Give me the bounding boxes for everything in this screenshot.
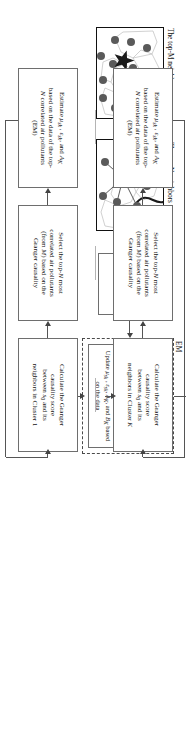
row-k-select-box[interactable]: Select the top-N mostcorrelated air poll…	[113, 205, 173, 321]
flowchart-stage: The top-M neighbors	[0, 0, 186, 752]
row-k-feedback-hline	[184, 120, 185, 457]
row-k-connector-granger-to-select	[142, 326, 143, 338]
row-1-connector-granger-to-select	[47, 326, 48, 338]
em-group-label: EM	[174, 341, 183, 353]
row-1-feedback-arrow	[45, 449, 51, 454]
row-k-arrow-granger-to-select	[140, 321, 146, 326]
row-1-select-box[interactable]: Select the top-N mostcorrelated air poll…	[18, 205, 78, 321]
arrow-em-to-row1	[80, 393, 85, 399]
ellipsis-estimate-column	[95, 110, 96, 144]
row-1-arrow-select-to-estimate	[45, 188, 51, 193]
row-1-feedback-hline	[5, 120, 6, 457]
row-1-estimate-box[interactable]: Estimate μsk , εsk, and AKbased on the d…	[18, 68, 78, 188]
row-1-connector-select-to-estimate	[47, 193, 48, 205]
ellipsis-granger-column	[95, 378, 96, 412]
row-k-granger-box[interactable]: Calculate the Grangercausality scorebetw…	[113, 338, 173, 452]
ellipsis-select-column	[95, 246, 96, 280]
row-1-feedback-vline-right	[6, 457, 48, 458]
flowchart-figure: The top-M neighbors	[0, 0, 186, 752]
row-1-granger-box[interactable]: Calculate the Grangercausality scorebetw…	[18, 338, 78, 452]
row-k-arrow-select-to-estimate	[140, 188, 146, 193]
row-1-arrow-granger-to-select	[45, 321, 51, 326]
row-k-connector-select-to-estimate	[142, 193, 143, 205]
row-1-feedback-vline	[6, 120, 18, 121]
row-k-estimate-box[interactable]: Estimate μsk , εsk, and AKbased on the d…	[113, 68, 173, 188]
row-k-feedback-vline-right	[143, 457, 185, 458]
row-k-feedback-arrow	[140, 449, 146, 454]
arrow-em-branch-k	[111, 393, 116, 399]
